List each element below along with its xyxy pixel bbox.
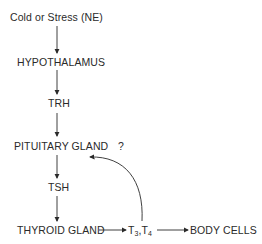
hypothalamus-label: HYPOTHALAMUS: [17, 56, 105, 68]
stimulus-label: Cold or Stress (NE): [10, 11, 103, 23]
t4-letter: ,T: [139, 224, 149, 236]
pituitary-label: PITUITARY GLAND: [14, 140, 108, 152]
thyroid-label: THYROID GLAND: [17, 224, 105, 236]
t4-subscript: 4: [148, 230, 152, 237]
question-mark: ?: [118, 140, 124, 152]
body-cells-label: BODY CELLS: [190, 224, 257, 236]
feedback-arrow: [90, 157, 142, 221]
tsh-label: TSH: [48, 181, 69, 193]
t3-t4-label: T3,T4: [128, 224, 152, 237]
trh-label: TRH: [48, 97, 70, 109]
flow-arrows: [0, 0, 262, 244]
